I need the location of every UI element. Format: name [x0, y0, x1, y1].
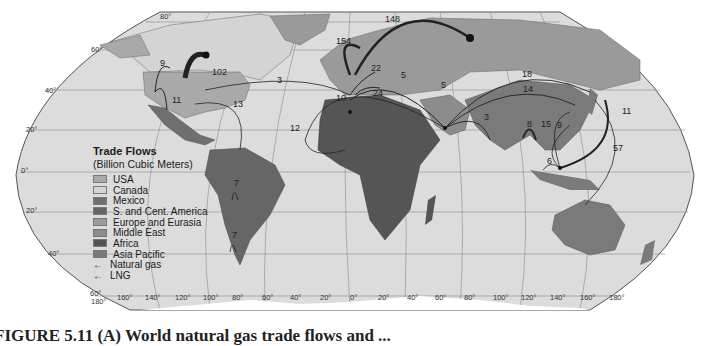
longitude-label: 0°	[350, 293, 357, 302]
legend-item-middle-east: Middle East	[93, 227, 243, 238]
legend-label: LNG	[110, 270, 131, 281]
legend-item-south-central-america: S. and Cent. America	[93, 206, 243, 217]
flow-label: 14	[523, 84, 533, 94]
flow-label: 24	[373, 88, 383, 98]
longitude-label: 100°	[203, 293, 219, 302]
flow-label: 11	[622, 106, 631, 116]
flow-label: 13	[233, 99, 243, 109]
asia-pacific-swatch	[93, 250, 107, 258]
longitude-label: 100°	[493, 293, 509, 302]
mexico-swatch	[93, 197, 107, 205]
longitude-label: 60°	[262, 293, 273, 302]
south-central-america-swatch	[93, 207, 107, 215]
legend-label: S. and Cent. America	[113, 206, 208, 217]
longitude-label: 20°	[320, 293, 331, 302]
longitude-label: 180°	[609, 293, 625, 302]
legend-label: USA	[113, 174, 134, 185]
latitude-label: 40°	[45, 86, 56, 95]
map-legend: Trade Flows (Billion Cubic Meters) USA C…	[93, 145, 243, 281]
latitude-label: 20°	[26, 125, 37, 134]
longitude-label: 140°	[145, 293, 161, 302]
legend-item-mexico: Mexico	[93, 195, 243, 206]
arrow-left-icon: ←	[93, 260, 107, 270]
longitude-label: 60°	[435, 293, 446, 302]
legend-label: Asia Pacific	[113, 249, 165, 260]
flow-label: 11	[172, 95, 181, 105]
legend-item-natural-gas: ← Natural gas	[93, 260, 243, 271]
longitude-label: 20°	[378, 293, 389, 302]
flow-label: 8	[527, 119, 532, 129]
latitude-label: 60°	[91, 45, 102, 54]
legend-item-europe-eurasia: Europe and Eurasia	[93, 217, 243, 228]
flow-label: 5	[441, 80, 446, 90]
usa-swatch	[93, 175, 107, 183]
longitude-label: 140°	[550, 293, 566, 302]
legend-title: Trade Flows	[93, 145, 243, 158]
longitude-label: 180°	[91, 297, 107, 306]
flow-label: 15	[541, 119, 551, 129]
flow-label: 3	[484, 112, 489, 122]
flow-label: 22	[371, 63, 381, 73]
flow-label: 9	[557, 120, 562, 130]
flow-label: 3	[277, 75, 282, 85]
flow-label: 154	[336, 36, 351, 46]
legend-label: Canada	[113, 185, 148, 196]
longitude-label: 80°	[464, 293, 475, 302]
flow-label: 6	[547, 156, 552, 166]
legend-item-usa: USA	[93, 174, 243, 185]
legend-subtitle: (Billion Cubic Meters)	[93, 158, 243, 171]
longitude-label: 120°	[521, 293, 537, 302]
legend-item-africa: Africa	[93, 238, 243, 249]
longitude-label: 160°	[117, 293, 133, 302]
legend-label: Mexico	[113, 195, 145, 206]
flow-label: 148	[385, 14, 400, 24]
flow-label: 57	[613, 143, 623, 153]
latitude-label: 0°	[21, 166, 28, 175]
flow-label: 9	[160, 58, 165, 68]
europe-eurasia-swatch	[93, 218, 107, 226]
flow-label: 102	[212, 67, 227, 77]
flow-label: 18	[522, 69, 532, 79]
longitude-label: 160°	[580, 293, 596, 302]
africa-swatch	[93, 239, 107, 247]
longitude-label: 40°	[407, 293, 418, 302]
legend-item-canada: Canada	[93, 185, 243, 196]
longitude-label: 40°	[290, 293, 301, 302]
legend-label: Europe and Eurasia	[113, 217, 201, 228]
legend-label: Natural gas	[110, 259, 161, 270]
flow-label: 10	[336, 93, 346, 103]
latitude-label: 20°	[26, 206, 37, 215]
figure-caption: FIGURE 5.11 (A) World natural gas trade …	[0, 326, 391, 346]
flow-label: 5	[401, 70, 406, 80]
legend-label: Africa	[113, 238, 139, 249]
middle-east-swatch	[93, 229, 107, 237]
flow-label: 12	[290, 123, 300, 133]
longitude-label: 120°	[175, 293, 191, 302]
latitude-label: 80°	[160, 12, 171, 21]
legend-label: Middle East	[113, 227, 165, 238]
legend-item-lng: ← LNG	[93, 270, 243, 281]
latitude-label: 40°	[48, 249, 59, 258]
longitude-label: 80°	[232, 293, 243, 302]
arrow-left-icon: ←	[93, 271, 107, 281]
legend-item-asia-pacific: Asia Pacific	[93, 249, 243, 260]
canada-swatch	[93, 186, 107, 194]
